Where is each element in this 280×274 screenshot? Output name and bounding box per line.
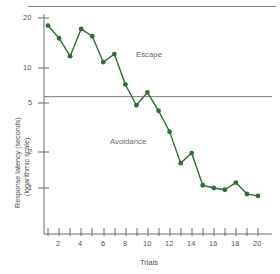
x-tick-label-8: 8 xyxy=(123,239,127,248)
escape-label: Escape xyxy=(136,50,162,59)
data-point-trial-8 xyxy=(123,82,128,87)
data-point-trial-13 xyxy=(178,161,183,166)
data-point-trial-18 xyxy=(233,180,238,185)
data-point-trial-11 xyxy=(156,108,161,113)
x-tick-label-12: 12 xyxy=(165,239,173,248)
data-point-trial-6 xyxy=(101,60,106,65)
x-axis-label: Trials xyxy=(140,258,158,267)
data-point-trial-20 xyxy=(256,194,261,199)
x-tick-label-6: 6 xyxy=(101,239,105,248)
y-tick-label-5: 5 xyxy=(28,98,32,107)
data-point-trial-1 xyxy=(46,23,51,28)
data-point-trial-9 xyxy=(134,103,139,108)
avoidance-label: Avoidance xyxy=(110,137,146,146)
y-axis-label-secondary: (logarithmic scale) xyxy=(22,138,31,196)
data-point-trial-5 xyxy=(90,34,95,39)
data-point-trial-4 xyxy=(79,27,84,32)
x-tick-label-10: 10 xyxy=(143,239,151,248)
y-axis-label: Response latency (seconds) xyxy=(13,117,22,208)
data-point-trial-2 xyxy=(57,36,62,41)
y-tick-label-10: 10 xyxy=(23,63,31,72)
data-point-trial-14 xyxy=(189,151,194,156)
x-tick-label-4: 4 xyxy=(78,239,82,248)
data-point-trial-19 xyxy=(245,192,250,197)
x-tick-label-2: 2 xyxy=(56,239,60,248)
x-tick-label-18: 18 xyxy=(231,239,239,248)
x-tick-label-16: 16 xyxy=(209,239,217,248)
data-point-trial-16 xyxy=(211,186,216,191)
x-tick-label-14: 14 xyxy=(187,239,195,248)
x-axis-ticks xyxy=(48,228,258,236)
data-point-trial-10 xyxy=(145,90,150,95)
data-point-trial-7 xyxy=(112,52,117,57)
data-point-trial-17 xyxy=(222,187,227,192)
y-tick-label-20: 20 xyxy=(23,13,31,22)
data-point-trial-12 xyxy=(167,129,172,134)
data-point-trial-15 xyxy=(200,183,205,188)
x-tick-label-20: 20 xyxy=(253,239,261,248)
data-point-trial-3 xyxy=(68,54,73,59)
chart-figure: 20 10 5 2 1 2 4 6 8 10 12 14 16 18 20 Re… xyxy=(0,0,280,274)
